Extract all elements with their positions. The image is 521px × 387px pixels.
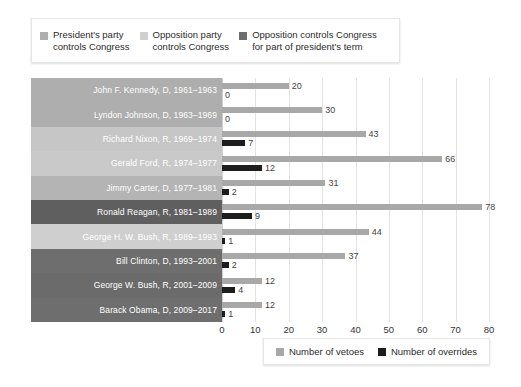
legend-item-opposition-part-term: Opposition controls Congress for part of… (239, 29, 377, 52)
legend-item-president-party: President's party controls Congress (40, 29, 130, 52)
series-legend: Number of vetoes Number of overrides (263, 338, 490, 365)
legend-swatch-icon (378, 348, 386, 356)
president-row-label: George H. W. Bush, R, 1989–1993 (31, 224, 222, 248)
bar-value-label: 0 (225, 114, 230, 124)
president-row-label: Richard Nixon, R, 1969–1974 (31, 127, 222, 151)
bar-vetoes (222, 107, 322, 113)
bar-overrides (222, 287, 235, 293)
bar-value-label: 12 (265, 163, 275, 173)
bar-vetoes (222, 278, 262, 284)
legend-label: Number of overrides (391, 346, 477, 357)
x-axis-tick-label: 40 (350, 324, 361, 335)
president-row-label: Ronald Reagan, R, 1981–1989 (31, 200, 222, 224)
president-row-label: George W. Bush, R, 2001–2009 (31, 273, 222, 297)
bar-value-label: 1 (228, 236, 233, 246)
bar-overrides (222, 165, 262, 171)
x-axis-tick-label: 80 (484, 324, 495, 335)
bar-vetoes (222, 302, 262, 308)
legend-item-opposition-party: Opposition party controls Congress (140, 29, 230, 52)
president-name-label: George W. Bush, R, 2001–2009 (94, 280, 217, 290)
table-row: 312 (222, 176, 489, 200)
x-axis-tick-label: 30 (317, 324, 328, 335)
x-axis-tick-label: 0 (219, 324, 224, 335)
x-axis-tick-label: 70 (450, 324, 461, 335)
bar-value-label: 44 (372, 227, 382, 237)
president-row-label: Bill Clinton, D, 1993–2001 (31, 249, 222, 273)
bars-column: 2003004376612312789441372124121 (222, 78, 489, 322)
legend-swatch-icon (276, 348, 284, 356)
president-row-label: John F. Kennedy, D, 1961–1963 (31, 78, 222, 102)
legend-label: President's party controls Congress (53, 29, 130, 52)
bar-value-label: 30 (325, 105, 335, 115)
president-name-label: Richard Nixon, R, 1969–1974 (103, 134, 217, 144)
veto-override-chart: President's party controls Congress Oppo… (0, 0, 521, 387)
legend-swatch-icon (140, 32, 148, 40)
bar-vetoes (222, 180, 325, 186)
table-row: 789 (222, 200, 489, 224)
president-name-label: Ronald Reagan, R, 1981–1989 (97, 207, 217, 217)
bar-vetoes (222, 83, 289, 89)
category-legend: President's party controls Congress Oppo… (31, 18, 400, 63)
table-row: 121 (222, 298, 489, 322)
bar-value-label: 7 (248, 138, 253, 148)
bar-value-label: 31 (328, 178, 338, 188)
gridline (489, 78, 490, 322)
legend-swatch-icon (40, 32, 48, 40)
bar-value-label: 12 (265, 276, 275, 286)
bar-value-label: 78 (485, 202, 495, 212)
table-row: 124 (222, 273, 489, 297)
bar-overrides (222, 262, 229, 268)
x-axis-tick-label: 10 (250, 324, 261, 335)
president-name-label: George H. W. Bush, R, 1989–1993 (83, 232, 217, 242)
legend-label: Number of vetoes (289, 346, 364, 357)
x-axis-tick-label: 50 (384, 324, 395, 335)
president-name-label: Gerald Ford, R, 1974–1977 (111, 158, 217, 168)
president-row-label: Gerald Ford, R, 1974–1977 (31, 151, 222, 175)
table-row: 437 (222, 127, 489, 151)
bar-value-label: 4 (238, 285, 243, 295)
bar-vetoes (222, 131, 366, 137)
bar-vetoes (222, 204, 482, 210)
president-row-label: Lyndon Johnson, D, 1963–1969 (31, 102, 222, 126)
bar-value-label: 43 (369, 129, 379, 139)
bar-vetoes (222, 253, 345, 259)
legend-label: Opposition controls Congress for part of… (252, 29, 377, 52)
legend-swatch-icon (239, 32, 247, 40)
bar-vetoes (222, 156, 442, 162)
bar-overrides (222, 189, 229, 195)
president-name-label: Lyndon Johnson, D, 1963–1969 (94, 110, 217, 120)
table-row: 6612 (222, 151, 489, 175)
bar-value-label: 9 (255, 211, 260, 221)
bar-overrides (222, 238, 225, 244)
legend-item-vetoes: Number of vetoes (276, 346, 364, 357)
bar-value-label: 1 (228, 309, 233, 319)
table-row: 372 (222, 249, 489, 273)
president-name-label: Jimmy Carter, D, 1977–1981 (106, 183, 217, 193)
legend-item-overrides: Number of overrides (378, 346, 477, 357)
table-row: 441 (222, 224, 489, 248)
bar-value-label: 2 (232, 260, 237, 270)
president-label-column: John F. Kennedy, D, 1961–1963Lyndon John… (31, 78, 222, 322)
president-row-label: Jimmy Carter, D, 1977–1981 (31, 176, 222, 200)
president-name-label: Bill Clinton, D, 1993–2001 (116, 256, 217, 266)
legend-label: Opposition party controls Congress (153, 29, 230, 52)
table-row: 200 (222, 78, 489, 102)
x-axis-tick-label: 20 (283, 324, 294, 335)
bar-value-label: 12 (265, 300, 275, 310)
bar-value-label: 37 (348, 251, 358, 261)
bar-value-label: 2 (232, 187, 237, 197)
bar-value-label: 66 (445, 154, 455, 164)
president-name-label: John F. Kennedy, D, 1961–1963 (93, 85, 217, 95)
president-name-label: Barack Obama, D, 2009–2017 (100, 305, 217, 315)
bar-value-label: 20 (292, 81, 302, 91)
x-axis-tick-label: 60 (417, 324, 428, 335)
plot-area: John F. Kennedy, D, 1961–1963Lyndon John… (31, 78, 489, 322)
bar-overrides (222, 311, 225, 317)
bar-value-label: 0 (225, 90, 230, 100)
bar-vetoes (222, 229, 369, 235)
bar-overrides (222, 140, 245, 146)
president-row-label: Barack Obama, D, 2009–2017 (31, 298, 222, 322)
table-row: 300 (222, 102, 489, 126)
bar-overrides (222, 213, 252, 219)
